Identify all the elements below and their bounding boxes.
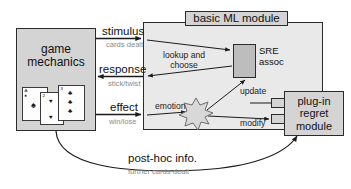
lookup-label-line1: lookup and xyxy=(155,50,213,60)
diagram-canvas: game mechanics A ♠ ♠ 2 ♥ ♥ 3 ♣ ♣ ♣ basic… xyxy=(0,0,351,189)
card-2-suit-bottom: ♥ xyxy=(49,114,53,120)
plugin-label-line3: module xyxy=(296,120,332,132)
emotion-label: emotion xyxy=(155,101,186,111)
post-hoc-info-label: post-hoc info. xyxy=(128,152,197,164)
lookup-and-choose-label: lookup and choose xyxy=(155,50,213,71)
stimulus-label: stimulus xyxy=(102,25,144,37)
card-2-rank: 2 xyxy=(43,94,45,99)
plugin-regret-module-box[interactable]: plug-in regret module xyxy=(284,91,344,136)
stimulus-sublabel: cards dealt xyxy=(106,40,143,49)
game-mechanics-label-line2: mechanics xyxy=(27,56,84,69)
card-3-suit-top: ♣ xyxy=(68,90,72,97)
basic-ml-module-title-label: basic ML module xyxy=(193,12,280,25)
sre-assoc-label-line1: SRE xyxy=(259,45,284,56)
playing-card-three-clubs: 3 ♣ ♣ ♣ xyxy=(58,85,85,121)
sre-assoc-label: SRE assoc xyxy=(259,45,284,67)
effect-label: effect xyxy=(110,101,138,113)
card-3-suit-mid: ♣ xyxy=(68,99,72,106)
plugin-connector-tab-lower xyxy=(271,114,285,124)
effect-sublabel: win/lose xyxy=(109,117,136,126)
basic-ml-module-title[interactable]: basic ML module xyxy=(185,11,288,26)
plugin-label-line1: plug-in xyxy=(297,95,330,107)
plugin-connector-tab-upper xyxy=(271,98,285,108)
sre-assoc-box[interactable] xyxy=(233,44,256,78)
response-label: response xyxy=(99,63,146,75)
lookup-label-line2: choose xyxy=(155,60,213,70)
modify-label: modify xyxy=(240,118,265,128)
sre-assoc-label-line2: assoc xyxy=(259,56,284,67)
card-2-suit-top: ♥ xyxy=(49,98,53,104)
update-label: update xyxy=(240,86,266,96)
plugin-label-line2: regret xyxy=(300,107,329,119)
game-mechanics-label-line1: game xyxy=(41,43,71,56)
card-3-rank: 3 xyxy=(61,87,63,92)
card-1-suit-center: ♠ xyxy=(31,101,36,110)
post-hoc-info-sublabel: further cards dealt xyxy=(128,167,189,176)
response-sublabel: stick/twist xyxy=(108,79,141,88)
playing-cards-group: A ♠ ♠ 2 ♥ ♥ 3 ♣ ♣ ♣ xyxy=(22,84,90,126)
card-3-suit-bottom: ♣ xyxy=(68,108,72,115)
card-1-suit-corner: ♠ xyxy=(25,94,27,99)
